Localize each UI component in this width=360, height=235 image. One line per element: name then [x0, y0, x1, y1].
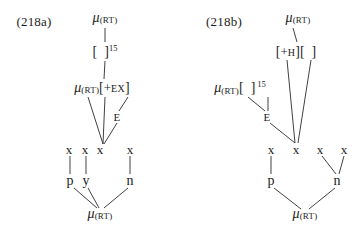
edge-e-to-x3 — [104, 123, 117, 144]
node-segment-n-a: n — [127, 174, 134, 188]
node-tier-e-b: E — [264, 112, 271, 123]
node-mu-rt-empty-bracket-15-b: μ(RT)[]15 — [214, 80, 266, 96]
mu-glyph: μ — [88, 206, 95, 221]
figure-label-a: (218a) — [16, 15, 51, 28]
mu-subscript: (RT) — [100, 15, 118, 25]
edge-x3-to-n — [322, 156, 336, 174]
edge-ex-to-e — [119, 97, 128, 111]
mu-glyph: μ — [214, 80, 221, 95]
feature-h: +H — [280, 44, 295, 59]
node-x-slot-4-b: x — [341, 143, 348, 156]
bracket-open: [ — [93, 44, 98, 59]
node-segment-p-a: p — [67, 174, 74, 188]
figure-canvas: (218a) μ(RT) []15 μ(RT)[+EX] E x x x x p… — [0, 0, 360, 235]
edge-bracket-to-x2-right — [298, 60, 311, 143]
node-plus-h-bracket-empty-b: [+H][] — [276, 43, 317, 59]
mu-glyph: μ — [286, 10, 293, 25]
mu-glyph: μ — [74, 80, 81, 95]
node-x-slot-4-a: x — [127, 143, 134, 156]
node-mu-rt-plus-ex-a: μ(RT)[+EX] — [74, 81, 129, 96]
node-x-slot-3-b: x — [317, 143, 324, 156]
node-tier-e-a: E — [114, 112, 121, 123]
figure-label-b: (218b) — [206, 15, 242, 28]
edge-x4-to-n — [339, 156, 344, 174]
node-segment-y-a: y — [83, 174, 90, 188]
edge-mu15-to-e — [248, 97, 265, 111]
mu-subscript: (RT) — [221, 86, 239, 96]
node-x-slot-1-a: x — [66, 143, 73, 156]
node-x-slot-1-b: x — [268, 143, 275, 156]
mu-subscript: (RT) — [293, 15, 311, 25]
bracket-superscript: 15 — [255, 79, 266, 89]
node-mu-rt-bottom-a: μ(RT) — [88, 207, 113, 222]
edge-bracket-assoc-to-x3 — [103, 97, 105, 144]
node-x-slot-3-a: x — [97, 143, 104, 156]
bracket-close: ] — [97, 44, 109, 59]
feature-ex: +EX — [104, 80, 125, 95]
node-mu-rt-bottom-b: μ(RT) — [293, 207, 318, 222]
mu-subscript: (RT) — [300, 211, 318, 221]
node-x-slot-2-b: x — [293, 143, 300, 156]
edge-e-to-x2 — [270, 123, 295, 143]
bracket-close: ] — [244, 80, 256, 95]
node-x-slot-2-a: x — [82, 143, 89, 156]
bracket-superscript: 15 — [109, 43, 118, 53]
mu-subscript: (RT) — [95, 211, 113, 221]
edge-bracket-to-x2-left — [287, 60, 295, 143]
edge-bracket-to-mu-ex — [104, 61, 105, 79]
node-mu-rt-top-a: μ(RT) — [93, 11, 118, 26]
bracket-close: ] — [125, 80, 130, 95]
edge-mu-top-to-bracket — [293, 28, 297, 42]
mu-subscript: (RT) — [81, 85, 99, 95]
node-empty-bracket-15-a: []15 — [93, 43, 118, 59]
edge-mu-ex-to-x1 — [88, 97, 103, 144]
association-lines — [0, 0, 360, 235]
mu-glyph: μ — [93, 10, 100, 25]
bracket-close-2: ] — [305, 44, 317, 59]
node-segment-p-b: p — [268, 174, 275, 188]
mu-glyph: μ — [293, 206, 300, 221]
edge-n-to-mu-bottom — [104, 188, 128, 208]
node-mu-rt-top-b: μ(RT) — [286, 11, 311, 26]
node-segment-n-b: n — [334, 174, 341, 188]
